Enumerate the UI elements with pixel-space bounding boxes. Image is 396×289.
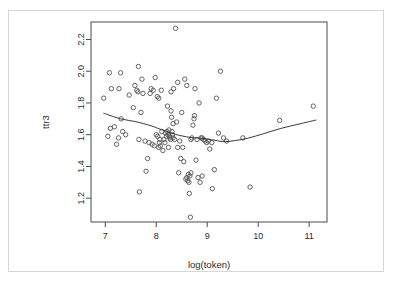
data-point xyxy=(311,104,315,108)
data-point xyxy=(176,171,180,175)
data-point xyxy=(177,139,181,143)
data-point xyxy=(169,115,173,119)
data-point xyxy=(197,101,201,105)
data-point xyxy=(200,174,204,178)
data-point xyxy=(198,180,202,184)
data-point xyxy=(161,148,165,152)
data-point xyxy=(175,80,179,84)
data-point xyxy=(180,110,184,114)
data-point xyxy=(118,71,122,75)
data-point xyxy=(136,64,140,68)
data-point xyxy=(218,69,222,73)
data-point xyxy=(193,86,197,90)
y-tick-label: 1.8 xyxy=(76,97,86,110)
data-point xyxy=(159,88,163,92)
plot-border xyxy=(91,22,327,222)
data-point xyxy=(173,26,177,30)
data-point xyxy=(208,147,212,151)
data-point xyxy=(187,191,191,195)
x-axis-ticks xyxy=(105,222,309,227)
data-point xyxy=(212,167,216,171)
data-point xyxy=(144,169,148,173)
data-point xyxy=(191,123,195,127)
x-tick-label: 11 xyxy=(304,231,313,241)
data-point xyxy=(145,156,149,160)
data-point xyxy=(183,77,187,81)
data-point xyxy=(192,113,196,117)
data-point xyxy=(140,77,144,81)
data-point xyxy=(210,186,214,190)
loess-smoother-curve xyxy=(104,113,316,141)
data-point xyxy=(102,96,106,100)
y-tick-label: 2.2 xyxy=(76,33,86,46)
data-point xyxy=(112,125,116,129)
x-tick-label: 8 xyxy=(154,231,159,241)
data-point xyxy=(123,133,127,137)
y-axis-tick-labels: 2.22.01.81.61.41.2 xyxy=(76,33,86,204)
data-point xyxy=(137,190,141,194)
data-point xyxy=(133,83,137,87)
y-tick-label: 2.0 xyxy=(76,65,86,78)
data-point xyxy=(107,71,111,75)
x-tick-label: 7 xyxy=(103,231,108,241)
data-point xyxy=(194,158,198,162)
data-point xyxy=(185,83,189,87)
x-axis-tick-labels: 7891011 xyxy=(103,231,314,241)
y-axis-title: ttr3 xyxy=(40,115,51,129)
data-point xyxy=(182,159,186,163)
data-point xyxy=(166,145,170,149)
y-tick-label: 1.6 xyxy=(76,128,86,141)
x-axis-title: log(token) xyxy=(188,259,230,270)
data-point xyxy=(106,134,110,138)
y-axis-ticks xyxy=(86,39,91,198)
data-point xyxy=(131,106,135,110)
x-tick-label: 9 xyxy=(205,231,210,241)
data-point xyxy=(188,215,192,219)
data-point xyxy=(277,118,281,122)
plot-axes: 2.22.01.81.61.41.2 7891011 xyxy=(76,22,327,241)
data-point xyxy=(114,142,118,146)
data-point xyxy=(137,137,141,141)
data-point xyxy=(181,145,185,149)
data-point xyxy=(214,96,218,100)
y-tick-label: 1.2 xyxy=(76,192,86,205)
scatter-plot: 2.22.01.81.61.41.2 7891011 log(token) tt… xyxy=(0,0,396,289)
data-point xyxy=(248,185,252,189)
data-point xyxy=(109,86,113,90)
data-point xyxy=(153,75,157,79)
data-point xyxy=(141,91,145,95)
y-tick-label: 1.4 xyxy=(76,160,86,173)
figure-root: 2.22.01.81.61.41.2 7891011 log(token) tt… xyxy=(0,0,396,289)
data-point xyxy=(116,136,120,140)
data-point xyxy=(117,86,121,90)
scatter-points xyxy=(102,26,316,219)
data-point xyxy=(169,109,173,113)
data-point xyxy=(139,110,143,114)
x-tick-label: 10 xyxy=(253,231,263,241)
data-point xyxy=(169,90,173,94)
data-point xyxy=(127,93,131,97)
data-point xyxy=(165,104,169,108)
data-point xyxy=(216,131,220,135)
data-point xyxy=(175,145,179,149)
